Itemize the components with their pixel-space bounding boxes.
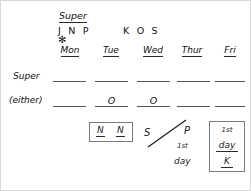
column-header-label: Tue	[103, 45, 119, 57]
fri-letter-text: K	[221, 156, 233, 168]
cell-either-tue[interactable]: O	[95, 94, 128, 107]
nn-annotation-box[interactable]: N N	[89, 122, 133, 142]
asterisk-icon: ✻	[58, 34, 66, 45]
column-header-wed: Wed	[134, 46, 172, 55]
super-title: Super	[59, 11, 87, 23]
fri-day-word: day	[210, 141, 244, 150]
fri-annotation-box[interactable]: 1st day K	[209, 121, 245, 172]
cell-super-thur[interactable]	[177, 69, 210, 82]
cell-value: O	[95, 96, 128, 106]
row-label-super: Super	[13, 72, 39, 81]
column-header-label: Fri	[224, 45, 235, 57]
initials-group-right: K O S	[123, 26, 160, 36]
fri-ordinal: 1st	[210, 127, 244, 134]
cell-super-tue[interactable]	[95, 69, 128, 82]
column-header-label: Wed	[143, 45, 163, 57]
column-header-fri: Fri	[214, 46, 246, 55]
sp-annotation-group: S P 1st day	[144, 120, 204, 172]
nn-letter-left: N	[96, 126, 105, 137]
cell-either-mon[interactable]	[53, 94, 86, 107]
cell-super-wed[interactable]	[137, 69, 170, 82]
cell-value: O	[137, 96, 170, 106]
sp-letter-right: P	[184, 125, 190, 136]
cell-either-fri[interactable]	[215, 94, 245, 107]
column-header-tue: Tue	[93, 46, 129, 55]
cell-super-fri[interactable]	[215, 69, 245, 82]
sp-ordinal: 1st	[177, 142, 188, 150]
cell-either-wed[interactable]: O	[137, 94, 170, 107]
fri-day-word-text: day	[216, 140, 239, 152]
sp-day-word: day	[174, 156, 191, 166]
column-header-thur: Thur	[173, 46, 211, 55]
cell-either-thur[interactable]	[177, 94, 210, 107]
nn-letter-right: N	[116, 126, 125, 137]
column-header-label: Thur	[182, 45, 203, 57]
cell-super-mon[interactable]	[53, 69, 86, 82]
row-label-either: (either)	[9, 96, 43, 105]
schedule-diagram: Super J N P K O S ✻ Mon Tue Wed Thur Fri…	[0, 0, 251, 191]
column-header-mon: Mon	[52, 46, 88, 55]
fri-letter: K	[210, 157, 244, 166]
column-header-label: Mon	[61, 45, 80, 57]
